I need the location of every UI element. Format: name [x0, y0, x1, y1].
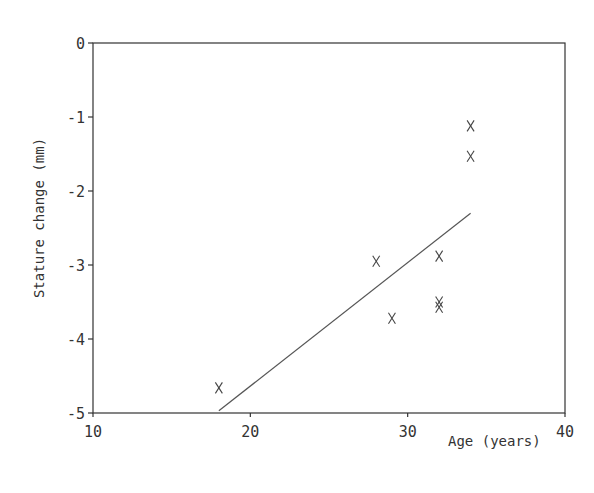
y-tick-label: -2	[67, 183, 85, 201]
x-tick-label: 10	[84, 423, 102, 441]
y-tick-label: -4	[67, 331, 85, 349]
x-tick-label: 20	[241, 423, 259, 441]
x-marker-icon	[436, 297, 443, 308]
x-marker-icon	[373, 256, 380, 267]
x-marker-icon	[436, 302, 443, 313]
x-tick-label: 40	[556, 423, 574, 441]
y-tick-label: -5	[67, 405, 85, 423]
plot-frame	[93, 43, 565, 413]
x-marker-icon	[436, 251, 443, 262]
x-marker-icon	[467, 151, 474, 162]
plot-border	[93, 43, 565, 413]
y-tick-label: 0	[76, 35, 85, 53]
x-axis-title: Age (years)	[448, 433, 541, 449]
scatter-chart: 10203040 0-1-2-3-4-5 Age (years) Stature…	[0, 0, 594, 493]
regression-line	[219, 213, 471, 411]
y-tick-label: -1	[67, 109, 85, 127]
x-marker-icon	[388, 313, 395, 324]
y-axis-ticks: 0-1-2-3-4-5	[67, 35, 93, 423]
x-tick-label: 30	[399, 423, 417, 441]
data-points	[215, 120, 474, 393]
x-marker-icon	[215, 382, 222, 393]
x-marker-icon	[467, 120, 474, 131]
y-axis-title: Stature change (mm)	[31, 138, 47, 298]
y-tick-label: -3	[67, 257, 85, 275]
